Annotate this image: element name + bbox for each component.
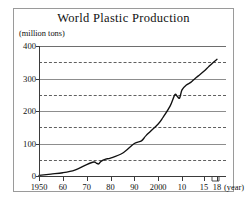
y-tick-300 (36, 79, 40, 80)
data-curve (39, 46, 226, 176)
y-tick-200 (36, 111, 40, 112)
plastic-production-figure: World Plastic Production (million tons) … (0, 0, 247, 209)
x-axis-unit-label: (year) (224, 183, 244, 192)
y-tick-label-400: 400 (23, 41, 36, 51)
plot-area (39, 46, 226, 176)
y-tick-label-300: 300 (23, 74, 36, 84)
y-tick-400 (36, 46, 40, 47)
y-tick-100 (36, 144, 40, 145)
chart-title: World Plastic Production (13, 11, 234, 26)
y-axis: 0100200300400 (39, 46, 40, 176)
y-tick-label-100: 100 (23, 139, 36, 149)
y-axis-unit-label: (million tons) (19, 29, 65, 38)
axis-break-bracket-icon (39, 176, 226, 190)
y-tick-label-0: 0 (32, 171, 36, 181)
y-tick-label-200: 200 (23, 106, 36, 116)
